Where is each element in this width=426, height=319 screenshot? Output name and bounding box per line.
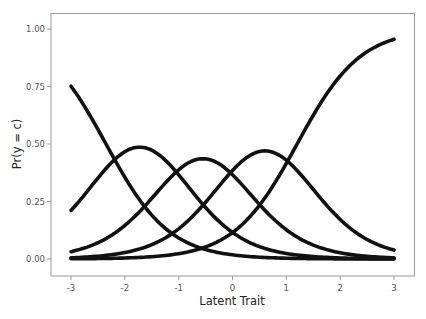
- x-tick-label: 0: [230, 283, 235, 293]
- y-tick-label: 0.25: [26, 197, 45, 207]
- y-tick-label: 0.75: [26, 82, 45, 92]
- category-probability-chart: -3-2-10123 0.000.250.500.751.00 Latent T…: [0, 0, 426, 319]
- x-tick-label: 3: [391, 283, 396, 293]
- y-tick-label: 0.50: [26, 139, 45, 149]
- x-tick-label: 1: [284, 283, 289, 293]
- x-tick-label: -3: [67, 283, 75, 293]
- x-tick-label: -2: [121, 283, 129, 293]
- x-axis-ticks: -3-2-10123: [67, 276, 397, 293]
- x-tick-label: -1: [174, 283, 182, 293]
- x-axis-title: Latent Trait: [199, 294, 265, 308]
- y-axis-title: Pr(y = c): [10, 119, 24, 170]
- y-axis-ticks: 0.000.250.500.751.00: [26, 24, 51, 264]
- y-tick-label: 1.00: [26, 24, 45, 34]
- x-tick-label: 2: [337, 283, 342, 293]
- y-tick-label: 0.00: [26, 254, 45, 264]
